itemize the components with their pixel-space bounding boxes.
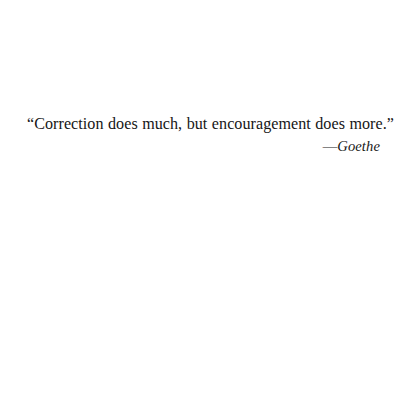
quotation-block: “Correction does much, but encouragement… xyxy=(27,113,381,156)
quotation-text: “Correction does much, but encouragement… xyxy=(27,113,381,134)
attribution: —Goethe xyxy=(323,138,380,154)
page-canvas: “Correction does much, but encouragement… xyxy=(0,0,409,410)
em-dash: — xyxy=(323,138,338,154)
attribution-line: —Goethe xyxy=(27,137,381,156)
attribution-author: Goethe xyxy=(337,138,380,154)
